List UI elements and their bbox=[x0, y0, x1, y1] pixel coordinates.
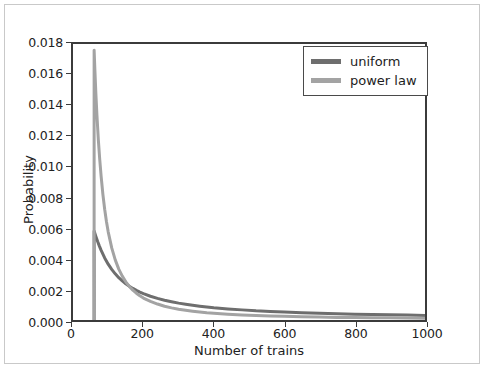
legend-swatch-power-law bbox=[311, 78, 341, 83]
y-tick-label: 0.004 bbox=[28, 252, 63, 267]
legend: uniform power law bbox=[303, 46, 428, 96]
y-tick-label: 0.016 bbox=[28, 66, 63, 81]
x-tick-label: 600 bbox=[273, 326, 296, 341]
y-tick-label: 0.014 bbox=[28, 97, 63, 112]
x-axis-label: Number of trains bbox=[71, 343, 427, 358]
y-axis-tick-marks bbox=[64, 42, 71, 322]
legend-label-power-law: power law bbox=[350, 73, 417, 88]
x-tick-label: 800 bbox=[344, 326, 367, 341]
y-tick-label: 0.006 bbox=[28, 221, 63, 236]
series-line-uniform bbox=[94, 231, 425, 320]
y-tick-label: 0.018 bbox=[28, 35, 63, 50]
y-tick-label: 0.002 bbox=[28, 283, 63, 298]
figure: Probability 0.0000.0020.0040.0060.0080.0… bbox=[0, 0, 485, 369]
y-tick-label: 0.010 bbox=[28, 159, 63, 174]
x-tick-label: 0 bbox=[67, 326, 75, 341]
x-axis-tick-labels: 02004006008001000 bbox=[71, 326, 427, 344]
legend-swatch-uniform bbox=[311, 59, 341, 64]
y-tick-label: 0.000 bbox=[28, 315, 63, 330]
y-tick-label: 0.008 bbox=[28, 190, 63, 205]
x-tick-label: 1000 bbox=[411, 326, 442, 341]
x-tick-label: 400 bbox=[202, 326, 225, 341]
legend-label-uniform: uniform bbox=[350, 54, 400, 69]
legend-item-uniform: uniform bbox=[311, 52, 421, 71]
y-axis-tick-labels: 0.0000.0020.0040.0060.0080.0100.0120.014… bbox=[0, 42, 63, 322]
y-tick-label: 0.012 bbox=[28, 128, 63, 143]
x-tick-label: 200 bbox=[131, 326, 154, 341]
legend-item-power-law: power law bbox=[311, 71, 421, 90]
